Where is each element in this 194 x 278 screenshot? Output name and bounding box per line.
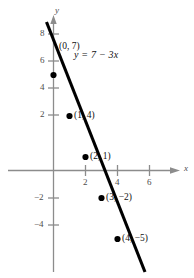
y-tick-label-4: 4 [40, 83, 45, 92]
y-tick-label-8: 8 [40, 29, 45, 38]
y-tick-label-6: 6 [40, 56, 45, 65]
y-tick-label-2: 2 [40, 110, 45, 119]
point-label-0-7: (0, 7) [59, 42, 80, 52]
x-axis [8, 167, 180, 173]
point-label-3-neg2: (3, −2) [106, 193, 132, 203]
x-tick-label-4: 4 [115, 178, 120, 187]
y-tick-label-neg2: −2 [34, 193, 44, 202]
plot-area [0, 0, 194, 278]
x-axis-name: x [184, 164, 188, 173]
point-label-1-4: (1, 4) [74, 111, 95, 121]
line-graph-figure: y x 8 6 4 2 −2 −4 2 4 6 y = 7 − 3x (0, 7… [0, 0, 194, 278]
x-tick-label-6: 6 [147, 178, 152, 187]
y-axis-name: y [55, 6, 59, 15]
equation-annotation: y = 7 − 3x [74, 50, 118, 60]
y-axis [50, 15, 56, 272]
x-tick-label-2: 2 [83, 178, 88, 187]
point-label-4-neg5: (4, −5) [122, 234, 148, 244]
point-label-2-1: (2, 1) [90, 152, 111, 162]
y-tick-label-neg4: −4 [34, 220, 44, 229]
